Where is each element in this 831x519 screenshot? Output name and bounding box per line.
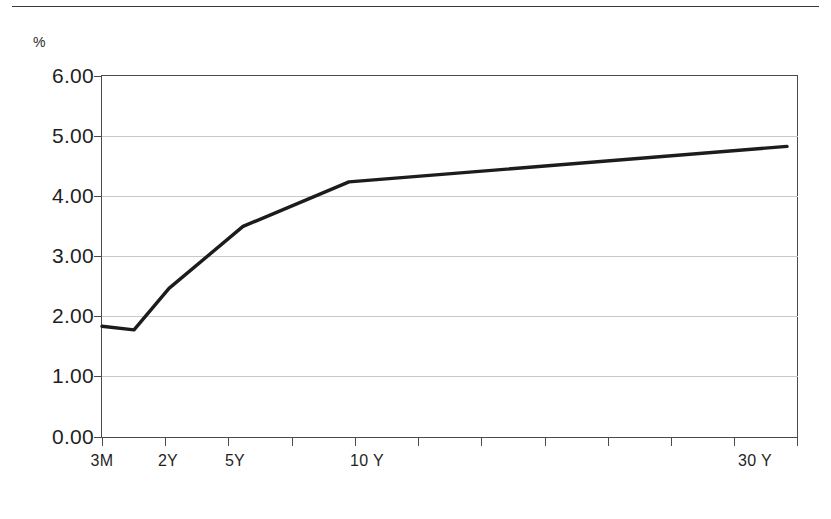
data-series-line: [0, 0, 831, 519]
yield-curve-polyline: [102, 146, 787, 330]
yield-curve-figure: % 6.005.004.003.002.001.000.00 3M2Y5Y10 …: [0, 0, 831, 519]
